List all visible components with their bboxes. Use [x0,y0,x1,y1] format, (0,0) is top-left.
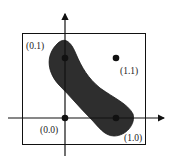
label-1-1: (1.1) [120,66,138,77]
label-0-1: (0.1) [26,41,44,52]
decision-region-blob [49,40,133,136]
point-0-0 [62,115,69,122]
point-1-1 [113,55,120,62]
point-0-1 [62,55,69,62]
point-1-0 [113,115,120,122]
label-0-0: (0.0) [40,125,58,136]
xor-region-diagram: (0.1) (1.1) (0.0) (1.0) [0,0,175,166]
label-1-0: (1.0) [124,133,142,144]
